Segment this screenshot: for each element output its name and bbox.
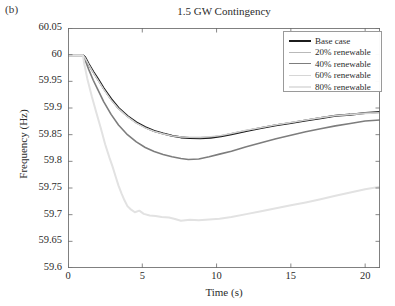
- x-tick-label: 15: [276, 270, 306, 281]
- y-tick-label: 59.85: [2, 128, 62, 139]
- legend-label: Base case: [315, 36, 350, 46]
- legend-label: 20% renewable: [315, 47, 371, 57]
- x-axis-label: Time (s): [68, 286, 380, 298]
- y-tick-label: 59.65: [2, 234, 62, 245]
- legend-item[interactable]: 40% renewable: [287, 58, 379, 69]
- y-tick-label: 59.8: [2, 154, 62, 165]
- legend-line-swatch: [289, 63, 311, 64]
- legend-label: 60% renewable: [315, 70, 371, 80]
- x-tick-label: 10: [202, 270, 232, 281]
- x-tick-label: 0: [53, 270, 83, 281]
- figure-container: (b) 1.5 GW Contingency Frequency (Hz) Ti…: [0, 0, 395, 306]
- y-axis-label: Frequency (Hz): [17, 69, 29, 219]
- legend-item[interactable]: 20% renewable: [287, 47, 379, 58]
- y-tick-label: 59.75: [2, 181, 62, 192]
- chart-title: 1.5 GW Contingency: [68, 5, 380, 17]
- legend-line-swatch: [289, 40, 311, 42]
- legend-item[interactable]: 80% renewable: [287, 81, 379, 92]
- legend-line-swatch: [289, 52, 311, 53]
- legend-item[interactable]: 60% renewable: [287, 70, 379, 81]
- y-tick-label: 60.05: [2, 21, 62, 32]
- x-tick-label: 20: [350, 270, 380, 281]
- legend-label: 80% renewable: [315, 82, 371, 92]
- y-tick-label: 59.95: [2, 74, 62, 85]
- legend-line-swatch: [289, 75, 311, 76]
- x-tick-label: 5: [127, 270, 157, 281]
- y-tick-label: 59.7: [2, 208, 62, 219]
- legend-item[interactable]: Base case: [287, 35, 379, 46]
- legend-line-swatch: [289, 86, 311, 88]
- y-tick-label: 59.9: [2, 101, 62, 112]
- y-tick-label: 60: [2, 48, 62, 59]
- legend-label: 40% renewable: [315, 59, 371, 69]
- legend-box: Base case20% renewable40% renewable60% r…: [283, 31, 382, 92]
- panel-label: (b): [5, 3, 18, 15]
